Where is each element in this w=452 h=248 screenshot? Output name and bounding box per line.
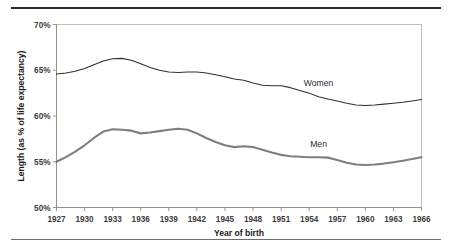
- series-inline-labels: WomenMen: [304, 78, 334, 149]
- series-label-men: Men: [310, 139, 327, 149]
- y-tick-label: 55%: [34, 158, 51, 167]
- x-tick-label: 1948: [244, 215, 263, 224]
- y-tick-label: 60%: [34, 112, 51, 121]
- x-tick-label: 1951: [272, 215, 291, 224]
- y-axis-title: Length (as % of life expectancy): [16, 50, 26, 181]
- series-line-men: [57, 129, 422, 165]
- series-line-women: [57, 58, 422, 105]
- x-axis-title: Year of birth: [214, 228, 264, 238]
- x-tick-label: 1936: [132, 215, 151, 224]
- plot-frame: [57, 25, 422, 208]
- line-chart-svg: 50%55%60%65%70% 192719301933193619391942…: [0, 0, 452, 248]
- y-tick-label: 70%: [34, 21, 51, 30]
- x-tick-label: 1954: [300, 215, 319, 224]
- y-axis-tick-labels: 50%55%60%65%70%: [34, 21, 51, 213]
- x-tick-label: 1957: [328, 215, 347, 224]
- y-tick-label: 50%: [34, 204, 51, 213]
- x-tick-label: 1939: [160, 215, 179, 224]
- x-tick-label: 1945: [216, 215, 235, 224]
- series-label-women: Women: [304, 78, 334, 88]
- plot-area-wrapper: 50%55%60%65%70% 192719301933193619391942…: [0, 0, 452, 248]
- x-tick-label: 1960: [356, 215, 375, 224]
- x-tick-label: 1930: [75, 215, 94, 224]
- x-tick-label: 1963: [384, 215, 403, 224]
- y-tick-label: 65%: [34, 66, 51, 75]
- data-series-lines: [57, 58, 422, 165]
- chart-figure: 50%55%60%65%70% 192719301933193619391942…: [0, 0, 452, 248]
- x-tick-label: 1927: [47, 215, 66, 224]
- x-axis-tick-labels: 1927193019331936193919421945194819511954…: [47, 215, 431, 224]
- x-tick-label: 1942: [188, 215, 207, 224]
- x-tick-label: 1933: [104, 215, 123, 224]
- x-tick-label: 1966: [412, 215, 431, 224]
- axis-tick-marks: [53, 25, 422, 212]
